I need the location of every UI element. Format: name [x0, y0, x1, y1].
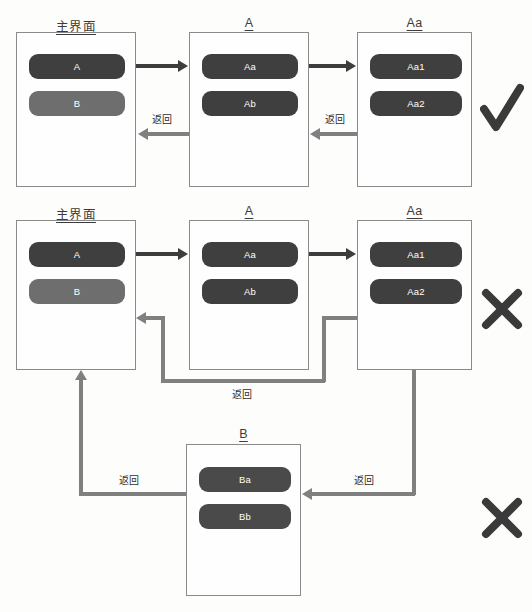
button-Ab-row1[interactable]: Ab — [202, 91, 298, 116]
arrowhead-right-icon — [346, 248, 356, 260]
button-Aa2-row2[interactable]: Aa2 — [370, 279, 462, 304]
arrowhead-right-icon — [346, 60, 356, 72]
arrowhead-left-icon — [302, 488, 312, 500]
panel-a-row1: Aa Ab — [189, 32, 309, 187]
panel-aa-row1: Aa1 Aa2 — [357, 32, 472, 187]
arrow-back-route-left-vert — [161, 316, 165, 382]
button-A-row1[interactable]: A — [29, 54, 125, 79]
arrow-back-route-aa-seg-vert — [322, 316, 326, 382]
button-Aa-row1[interactable]: Aa — [202, 54, 298, 79]
edge-label-back-b-right: 返回 — [351, 472, 377, 487]
arrow-back-route-aa-seg-top — [322, 316, 358, 320]
edge-label-back-b-left: 返回 — [116, 472, 142, 487]
arrow-route-b-to-home-vert — [79, 380, 83, 495]
arrow-back-aa-to-a-row1 — [320, 132, 358, 136]
panel-b-row3: Ba Bb — [186, 444, 301, 596]
arrow-back-a-to-home-row1 — [148, 132, 190, 136]
check-mark-icon — [480, 82, 524, 134]
panel-title-aa-row1: Aa — [357, 16, 472, 30]
panel-title-b-row3: B — [186, 427, 301, 441]
cross-mark-icon — [479, 286, 525, 332]
arrow-back-route-into-home-row2 — [146, 316, 164, 320]
button-A-row2[interactable]: A — [29, 242, 125, 267]
arrow-route-aa-to-b-vert — [412, 370, 416, 495]
panel-title-aa-row2: Aa — [357, 204, 472, 218]
panel-title-a-row1: A — [189, 16, 309, 30]
arrow-route-aa-to-b-horizontal — [312, 492, 415, 496]
navigation-flow-diagram: 主界面 A B A Aa Ab Aa Aa1 Aa2 返回 返回 主界面 A B… — [0, 0, 532, 612]
button-B-row2[interactable]: B — [29, 279, 125, 304]
arrowhead-left-icon — [310, 128, 320, 140]
arrow-route-b-to-home-horizontal — [79, 492, 187, 496]
cross-mark-icon — [479, 495, 525, 541]
button-B-row1[interactable]: B — [29, 91, 125, 116]
button-Aa2-row1[interactable]: Aa2 — [370, 91, 462, 116]
arrowhead-left-icon — [136, 312, 146, 324]
button-Ba-row3[interactable]: Ba — [199, 467, 291, 492]
arrowhead-right-icon — [178, 248, 188, 260]
edge-label-back-row2: 返回 — [229, 386, 255, 401]
panel-title-home-row1: 主界面 — [16, 16, 136, 35]
arrowhead-up-icon — [75, 370, 87, 380]
arrowhead-right-icon — [178, 60, 188, 72]
button-Aa1-row1[interactable]: Aa1 — [370, 54, 462, 79]
button-Aa-row2[interactable]: Aa — [202, 242, 298, 267]
panel-home-row2: A B — [16, 220, 136, 370]
button-Bb-row3[interactable]: Bb — [199, 504, 291, 529]
panel-home-row1: A B — [16, 32, 136, 187]
button-Ab-row2[interactable]: Ab — [202, 279, 298, 304]
edge-label-back-aa-to-a-row1: 返回 — [322, 111, 348, 126]
panel-a-row2: Aa Ab — [189, 220, 309, 370]
panel-aa-row2: Aa1 Aa2 — [357, 220, 472, 370]
panel-title-home-row2: 主界面 — [16, 204, 136, 223]
panel-title-a-row2: A — [189, 204, 309, 218]
arrowhead-left-icon — [138, 128, 148, 140]
arrow-back-route-shared-horizontal — [161, 379, 325, 383]
edge-label-back-a-to-home-row1: 返回 — [149, 111, 175, 126]
button-Aa1-row2[interactable]: Aa1 — [370, 242, 462, 267]
